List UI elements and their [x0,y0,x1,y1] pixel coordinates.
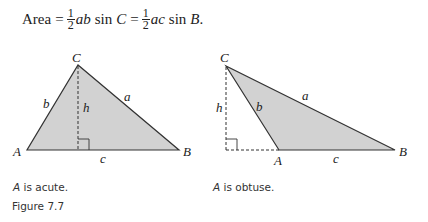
side-a: a [302,88,309,103]
side-a: a [124,89,131,104]
vertex-a: A [273,153,282,168]
height-label: h [216,100,223,115]
side-b: b [43,96,50,111]
acute-triangle: C A B b a c h [12,50,191,166]
right-angle-mark [226,139,237,150]
figure-title: Figure 7.7 [12,200,64,212]
caption-obtuse: A is obtuse. [213,181,274,193]
acute-triangle-shape [27,65,179,150]
vertex-b: B [399,144,407,159]
side-c: c [100,151,106,166]
obtuse-triangle-shape [226,66,395,150]
side-c: c [333,151,339,166]
vertex-c: C [220,50,229,65]
caption-acute: A is acute. [13,181,68,193]
vertex-c: C [72,50,81,65]
obtuse-triangle: C A B b a c h [216,50,407,168]
side-b: b [256,99,263,114]
vertex-a: A [12,144,21,159]
vertex-b: B [183,144,191,159]
height-label: h [83,100,90,115]
